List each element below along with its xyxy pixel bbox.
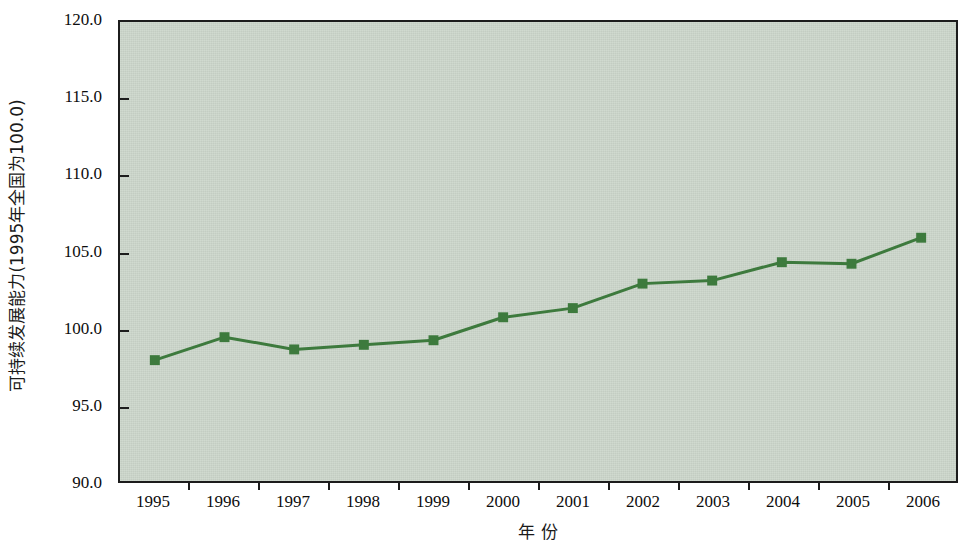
y-axis-tick-label: 90.0 bbox=[72, 473, 102, 493]
x-axis-tick-marks bbox=[118, 481, 958, 491]
x-axis-tick-label: 2005 bbox=[836, 492, 870, 512]
x-axis-tick-label: 2006 bbox=[906, 492, 940, 512]
y-axis-tick-mark bbox=[120, 98, 129, 100]
y-axis-title-text: 可持续发展能力(1995年全国为100.0) bbox=[3, 99, 28, 391]
x-axis-tick-mark bbox=[398, 481, 400, 490]
x-axis-tick-mark bbox=[188, 481, 190, 490]
data-point-marker: 2005: 104.2 bbox=[847, 259, 857, 269]
data-point-marker: 2000: 100.7 bbox=[498, 312, 508, 322]
data-point-marker: 2006: 105.9 bbox=[916, 233, 926, 243]
y-axis-tick-mark bbox=[120, 407, 129, 409]
sustainable-development-line-chart: 可持续发展能力(1995年全国为100.0) 90.095.0100.0105.… bbox=[0, 0, 972, 550]
series-line bbox=[155, 238, 921, 360]
data-point-marker: 2003: 103.1 bbox=[707, 276, 717, 286]
x-axis-tick-mark bbox=[748, 481, 750, 490]
y-axis-tick-label: 115.0 bbox=[64, 87, 102, 107]
data-point-marker: 2001: 101.3 bbox=[568, 303, 578, 313]
x-axis-tick-mark bbox=[468, 481, 470, 490]
y-axis-tick-labels: 90.095.0100.0105.0110.0115.0120.0 bbox=[30, 0, 110, 500]
x-axis-tick-label: 2003 bbox=[696, 492, 730, 512]
series-line-plot: 1995: 97.91996: 99.41997: 98.61998: 98.9… bbox=[120, 22, 956, 481]
x-axis-tick-label: 1997 bbox=[276, 492, 310, 512]
x-axis-tick-label: 2002 bbox=[626, 492, 660, 512]
y-axis-tick-mark bbox=[120, 253, 129, 255]
data-point-marker: 1996: 99.4 bbox=[220, 332, 230, 342]
data-point-marker: 2004: 104.3 bbox=[777, 257, 787, 267]
y-axis-tick-label: 110.0 bbox=[64, 164, 102, 184]
x-axis-tick-mark bbox=[608, 481, 610, 490]
x-axis-tick-label: 2004 bbox=[766, 492, 800, 512]
x-axis-tick-label: 1995 bbox=[136, 492, 170, 512]
x-axis-tick-mark bbox=[818, 481, 820, 490]
y-axis-tick-mark bbox=[120, 330, 129, 332]
x-axis-tick-mark bbox=[258, 481, 260, 490]
data-point-marker: 1997: 98.6 bbox=[289, 344, 299, 354]
x-axis-tick-mark bbox=[328, 481, 330, 490]
x-axis-tick-label: 2000 bbox=[486, 492, 520, 512]
y-axis-tick-label: 120.0 bbox=[64, 10, 102, 30]
x-axis-tick-label: 2001 bbox=[556, 492, 590, 512]
y-axis-tick-label: 105.0 bbox=[64, 242, 102, 262]
x-axis-tick-label: 1998 bbox=[346, 492, 380, 512]
y-axis-tick-mark bbox=[120, 175, 129, 177]
data-point-marker: 1999: 99.2 bbox=[429, 335, 439, 345]
x-axis-tick-label: 1999 bbox=[416, 492, 450, 512]
plot-area: 1995: 97.91996: 99.41997: 98.61998: 98.9… bbox=[118, 20, 958, 483]
y-axis-tick-label: 100.0 bbox=[64, 319, 102, 339]
x-axis-tick-mark bbox=[888, 481, 890, 490]
data-point-marker: 1995: 97.9 bbox=[150, 355, 160, 365]
data-point-marker: 2002: 102.9 bbox=[638, 279, 648, 289]
x-axis-tick-mark bbox=[538, 481, 540, 490]
x-axis-tick-label: 1996 bbox=[206, 492, 240, 512]
data-point-marker: 1998: 98.9 bbox=[359, 340, 369, 350]
y-axis-tick-label: 95.0 bbox=[72, 396, 102, 416]
x-axis-title: 年 份 bbox=[118, 518, 958, 543]
x-axis-tick-labels: 1995199619971998199920002001200220032004… bbox=[118, 492, 958, 520]
x-axis-tick-mark bbox=[678, 481, 680, 490]
y-axis-title: 可持续发展能力(1995年全国为100.0) bbox=[0, 0, 30, 490]
